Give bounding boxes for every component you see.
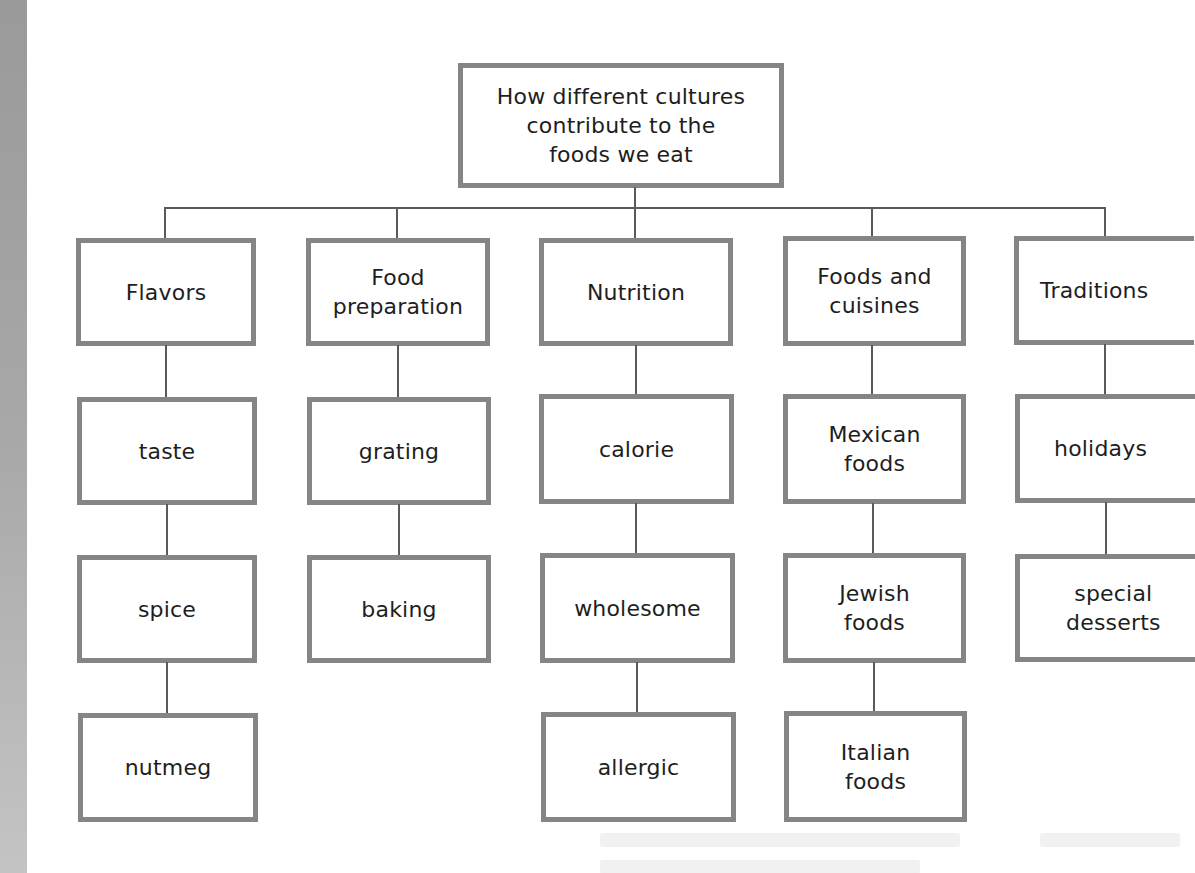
node-nutmeg: nutmeg [78,713,258,822]
connector [873,662,875,714]
node-flavors: Flavors [76,238,256,346]
connector [635,503,637,555]
connector [166,504,168,556]
node-baking: baking [307,555,491,663]
node-allergic: allergic [541,712,736,822]
node-holidays: holidays [1015,394,1195,503]
node-mexican-foods: Mexican foods [783,394,966,504]
book-spine-shadow [0,0,27,873]
connector [165,345,167,398]
root-node: How different cultures contribute to the… [458,63,784,188]
node-foods-and-cuisines: Foods and cuisines [783,236,966,346]
connector [871,345,873,395]
page-bleed-through [0,820,1182,873]
connector-root [634,187,636,209]
node-special-desserts: special desserts [1015,554,1195,662]
connector [166,662,168,714]
connector [872,503,874,555]
connector-drop-flavors [164,207,166,240]
node-wholesome: wholesome [540,553,735,663]
connector [1105,502,1107,555]
node-food-preparation: Food preparation [306,238,490,346]
node-spice: spice [77,555,257,663]
connector [398,504,400,556]
node-jewish-foods: Jewish foods [783,553,966,663]
node-grating: grating [307,397,491,505]
connector [1104,344,1106,395]
connector-drop-food-preparation [396,207,398,240]
connector [635,345,637,398]
connector [636,662,638,714]
node-nutrition: Nutrition [539,238,733,346]
node-traditions: Traditions [1014,236,1194,345]
connector-drop-nutrition [634,207,636,240]
node-italian-foods: Italian foods [784,711,967,822]
node-calorie: calorie [539,394,734,504]
connector [397,345,399,398]
node-taste: taste [77,397,257,505]
